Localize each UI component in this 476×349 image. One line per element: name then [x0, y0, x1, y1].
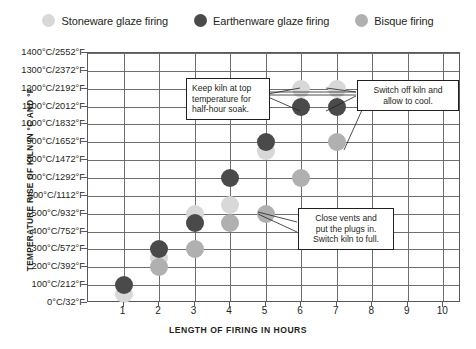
- data-point: [328, 80, 346, 98]
- x-tick-mark: [300, 302, 301, 307]
- y-tick-label: 100°C/212°F: [0, 279, 85, 289]
- gridline-horizontal: [88, 249, 459, 250]
- data-point: [292, 80, 310, 98]
- x-tick-mark: [371, 302, 372, 307]
- data-point: [221, 169, 239, 187]
- x-tick-mark: [442, 302, 443, 307]
- y-tick-mark: [82, 302, 87, 303]
- x-tick-mark: [194, 302, 195, 307]
- data-point: [186, 214, 204, 232]
- gridline-horizontal: [88, 160, 459, 161]
- x-axis-title: LENGTH OF FIRING IN HOURS: [0, 325, 476, 335]
- annotation-line: temperature for: [192, 94, 264, 105]
- x-tick-mark: [158, 302, 159, 307]
- data-point: [150, 240, 168, 258]
- gridline-vertical: [124, 53, 125, 301]
- legend-item-earthenware[interactable]: Earthenware glaze firing: [194, 14, 329, 27]
- gridline-horizontal: [88, 267, 459, 268]
- data-point: [150, 258, 168, 276]
- data-point: [186, 240, 204, 258]
- annotation-line: Switch off kiln and: [363, 85, 453, 96]
- gridline-horizontal: [88, 285, 459, 286]
- data-point: [292, 169, 310, 187]
- legend-marker-earthenware-icon: [194, 14, 207, 27]
- data-point: [328, 133, 346, 151]
- annotation-line: Close vents and: [304, 213, 388, 224]
- y-tick-label: 1000°C/1832°F: [0, 118, 85, 128]
- legend-label: Bisque firing: [374, 15, 433, 27]
- y-tick-label: 200°C/392°F: [0, 261, 85, 271]
- y-tick-label: 1100°C/2012°F: [0, 101, 85, 111]
- gridline-horizontal: [88, 71, 459, 72]
- data-point: [115, 276, 133, 294]
- annotation-line: Keep kiln at top: [192, 83, 264, 94]
- y-tick-label: 1400°C/2552°F: [0, 47, 85, 57]
- gridline-horizontal: [88, 53, 459, 54]
- data-point: [257, 205, 275, 223]
- chart-canvas: Stoneware glaze firingEarthenware glaze …: [0, 0, 476, 349]
- y-tick-label: 1300°C/2372°F: [0, 65, 85, 75]
- annotation-switch-off-note: Switch off kiln andallow to cool.: [357, 80, 459, 111]
- y-tick-label: 400°C/752°F: [0, 226, 85, 236]
- gridline-horizontal: [88, 196, 459, 197]
- data-point: [257, 133, 275, 151]
- legend-marker-stoneware-icon: [42, 14, 55, 27]
- chart-legend: Stoneware glaze firingEarthenware glaze …: [0, 14, 476, 27]
- x-tick-mark: [229, 302, 230, 307]
- legend-marker-bisque-icon: [355, 14, 368, 27]
- legend-item-bisque[interactable]: Bisque firing: [355, 14, 433, 27]
- annotation-close-vents-note: Close vents andput the plugs in.Switch k…: [298, 208, 394, 250]
- legend-item-stoneware[interactable]: Stoneware glaze firing: [42, 14, 168, 27]
- y-tick-label: 700°C/1292°F: [0, 172, 85, 182]
- x-tick-mark: [265, 302, 266, 307]
- x-tick-mark: [336, 302, 337, 307]
- y-tick-label: 300°C/572°F: [0, 243, 85, 253]
- y-tick-label: 1200°C/2192°F: [0, 83, 85, 93]
- data-point: [221, 196, 239, 214]
- legend-label: Earthenware glaze firing: [213, 15, 329, 27]
- data-point: [328, 98, 346, 116]
- x-tick-mark: [123, 302, 124, 307]
- y-tick-label: 800°C/1472°F: [0, 154, 85, 164]
- gridline-horizontal: [88, 232, 459, 233]
- legend-label: Stoneware glaze firing: [61, 15, 168, 27]
- x-tick-mark: [407, 302, 408, 307]
- y-tick-label: 900°C/1652°F: [0, 136, 85, 146]
- y-tick-label: 600°C/1112°F: [0, 190, 85, 200]
- data-point: [221, 214, 239, 232]
- annotation-line: allow to cool.: [363, 96, 453, 107]
- annotation-line: Switch kiln to full.: [304, 234, 388, 245]
- annotation-line: put the plugs in.: [304, 224, 388, 235]
- gridline-horizontal: [88, 178, 459, 179]
- gridline-horizontal: [88, 124, 459, 125]
- y-tick-label: 0°C/32°F: [0, 297, 85, 307]
- annotation-line: half-hour soak.: [192, 104, 264, 115]
- y-tick-label: 500°C/932°F: [0, 208, 85, 218]
- data-point: [292, 98, 310, 116]
- annotation-soak-note: Keep kiln at toptemperature forhalf-hour…: [186, 78, 270, 120]
